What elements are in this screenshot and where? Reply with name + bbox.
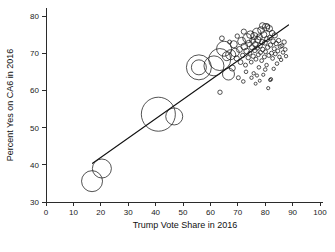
data-point-bubble <box>254 57 258 61</box>
x-tick-label: 70 <box>233 208 242 217</box>
x-tick-label: 10 <box>69 208 78 217</box>
x-axis-title: Trump Vote Share in 2016 <box>133 220 238 230</box>
data-point-bubble <box>275 62 279 66</box>
y-tick-label: 60 <box>30 86 39 95</box>
data-point-bubble <box>267 87 270 90</box>
data-point-bubble <box>265 63 269 67</box>
data-point-bubble <box>261 47 265 51</box>
data-point-bubble <box>249 45 254 50</box>
data-point-bubble <box>263 68 267 72</box>
regression-fit-line <box>93 25 289 163</box>
data-point-bubble <box>255 74 258 77</box>
data-point-bubble <box>271 57 275 61</box>
x-tick-label: 50 <box>179 208 188 217</box>
x-tick-label: 20 <box>96 208 105 217</box>
y-tick-label: 30 <box>30 198 39 207</box>
data-point-bubble <box>166 108 183 125</box>
data-point-bubble <box>258 79 261 82</box>
data-point-bubble <box>244 70 248 74</box>
data-point-bubble <box>204 56 224 76</box>
data-point-bubble <box>218 90 222 94</box>
data-point-bubble <box>279 58 282 61</box>
data-point-bubble <box>141 97 175 131</box>
x-tick-label: 100 <box>313 208 327 217</box>
x-tick-label: 0 <box>44 208 49 217</box>
data-point-bubble <box>276 38 280 42</box>
data-point-bubble <box>270 51 274 55</box>
data-point-bubble <box>235 34 239 38</box>
data-point-bubble <box>230 41 237 48</box>
scatter-plot-figure: 304050607080 0102030405060708090100 Trum… <box>0 0 335 252</box>
data-point-bubble <box>92 159 111 178</box>
data-point-bubble <box>222 68 234 80</box>
y-tick-label: 40 <box>30 161 39 170</box>
y-tick-label: 50 <box>30 124 39 133</box>
data-point-bubble <box>252 72 255 75</box>
data-point-bubble <box>271 39 276 44</box>
x-tick-label: 60 <box>206 208 215 217</box>
data-point-bubble <box>243 63 247 67</box>
data-point-bubble <box>241 80 245 84</box>
x-tick-label: 30 <box>124 208 133 217</box>
data-point-bubble <box>284 54 287 57</box>
data-point-bubble <box>220 36 225 41</box>
data-point-bubble <box>262 73 265 76</box>
data-point-bubble <box>257 66 261 70</box>
y-axis-title: Percent Yes on CA6 in 2016 <box>5 49 15 162</box>
data-point-bubble <box>254 82 257 85</box>
x-tick-label: 40 <box>151 208 160 217</box>
data-point-bubble <box>82 171 103 192</box>
plot-canvas: 304050607080 0102030405060708090100 Trum… <box>0 0 335 252</box>
x-tick-label: 90 <box>288 208 297 217</box>
data-point-bubble <box>267 53 271 57</box>
x-tick-label: 80 <box>261 208 270 217</box>
y-axis-ticks: 304050607080 <box>30 12 46 207</box>
data-point-bubble <box>282 40 286 44</box>
data-point-bubble <box>263 50 267 54</box>
data-point-bubble <box>238 60 243 65</box>
data-points-group <box>82 23 288 192</box>
data-point-bubble <box>272 67 275 70</box>
y-tick-label: 80 <box>30 12 39 21</box>
x-axis-ticks: 0102030405060708090100 <box>44 202 327 217</box>
y-tick-label: 70 <box>30 49 39 58</box>
data-point-bubble <box>250 76 253 79</box>
data-point-bubble <box>236 76 240 80</box>
data-point-bubble <box>276 49 280 53</box>
data-point-bubble <box>283 48 287 52</box>
data-point-bubble <box>260 59 264 63</box>
data-point-bubble <box>262 55 266 59</box>
data-point-bubble <box>246 55 250 59</box>
data-point-bubble <box>249 60 253 64</box>
data-point-bubble <box>241 29 246 34</box>
